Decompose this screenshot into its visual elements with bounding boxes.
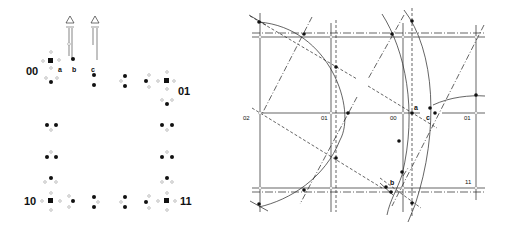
label-01-left: 01 xyxy=(321,115,328,121)
label-point-b: b xyxy=(390,179,394,186)
marker-b xyxy=(66,16,74,60)
construction-points xyxy=(257,19,478,206)
marker-c xyxy=(91,16,99,60)
label-b: b xyxy=(72,66,76,73)
right-panel-construction: 02 01 00 01 11 a b c xyxy=(243,8,485,222)
label-01-right: 01 xyxy=(464,115,471,121)
label-a: a xyxy=(58,66,62,73)
label-11: 11 xyxy=(465,179,472,185)
square-node-01 xyxy=(164,78,169,83)
construction-diagonals xyxy=(262,15,484,206)
label-01: 01 xyxy=(178,85,190,97)
square-node-11 xyxy=(164,198,169,203)
label-point-c: c xyxy=(426,114,430,121)
geometric-construction-diagram: 00 a b c 01 xyxy=(0,0,511,226)
label-point-a: a xyxy=(414,104,418,111)
label-c: c xyxy=(91,66,95,73)
label-10: 10 xyxy=(24,195,36,207)
grid-horizontal xyxy=(252,33,485,192)
arc-right-small xyxy=(433,96,485,105)
label-00: 00 xyxy=(390,115,397,121)
arc-left-large xyxy=(259,22,345,207)
label-02: 02 xyxy=(243,115,250,121)
square-node-10 xyxy=(48,198,53,203)
label-00: 00 xyxy=(26,65,38,77)
square-node-00 xyxy=(48,58,53,63)
left-panel-dot-layout: 00 a b c 01 xyxy=(24,16,192,211)
label-11: 11 xyxy=(180,195,192,207)
